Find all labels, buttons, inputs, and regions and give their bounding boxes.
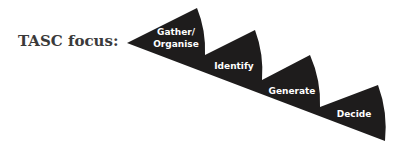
step-identify: Identify — [214, 61, 254, 71]
tasc-steps-diagram: Gather/ Organise Identify Generate Decid… — [0, 0, 401, 155]
step-decide: Decide — [337, 109, 372, 119]
svg-text:Gather/: Gather/ — [157, 27, 196, 37]
step-generate: Generate — [269, 86, 316, 96]
svg-text:Organise: Organise — [153, 39, 199, 49]
